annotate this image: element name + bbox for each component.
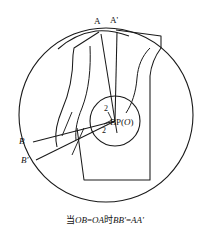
label-angle-left: 2 [102,127,106,135]
label-point-b: B [19,137,25,146]
caption-middle: 时 [104,215,113,225]
dart-leg-a-prime [115,32,117,121]
side-seam-curve [76,46,90,140]
label-bust-point-text: BP [110,117,121,127]
label-point-a-prime: A' [110,16,118,25]
bodice-outline-right [77,30,161,180]
caption-eq1-left: OB [75,215,87,225]
caption-prefix: 当 [66,215,75,225]
label-point-a: A [94,17,101,26]
pattern-diagram: A A' B B' 2 2 BP(O) 当OB=OA时BB'=AA' [0,0,210,236]
outer-circle [19,28,193,202]
caption-eq2-left: BB' [113,215,126,225]
caption-eq1-right: OA [92,215,104,225]
armhole-curve [126,48,150,113]
label-angle-top: 2 [104,105,108,113]
pattern-drawing [0,0,210,236]
shoulder-line [58,31,129,49]
figure-caption: 当OB=OA时BB'=AA' [0,213,210,226]
caption-eq2-right: AA' [131,215,144,225]
label-bust-point: BP(O) [110,118,134,127]
label-bust-point-paren-close: ) [131,117,134,127]
label-point-b-prime: B' [21,156,28,165]
